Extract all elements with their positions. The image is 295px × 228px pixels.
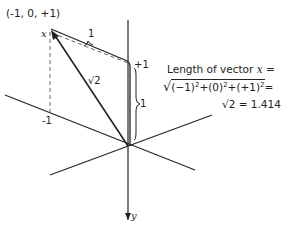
equation-line-1: Length of vector x = (167, 63, 275, 75)
equation-line-3: √2 = 1.414 (222, 98, 281, 110)
plus-one-label: +1 (134, 60, 149, 70)
segment-top-label: 1 (88, 29, 94, 39)
minus-one-label: -1 (42, 116, 52, 126)
vector-name-label: x (41, 29, 47, 39)
equation-line-2: √(−1)2+(0)2+(+1)2= (163, 79, 273, 94)
segment-right-label: 1 (140, 99, 146, 109)
axis-line-left-upper (5, 95, 195, 170)
point-coordinates-label: (-1, 0, +1) (6, 8, 60, 19)
vector-length-label: √2 (88, 76, 101, 86)
axis-line-left-lower (50, 115, 212, 175)
sqrt-radicand: (−1)2+(0)2+(+1)2 (171, 79, 264, 93)
y-axis-label: y (131, 211, 137, 221)
